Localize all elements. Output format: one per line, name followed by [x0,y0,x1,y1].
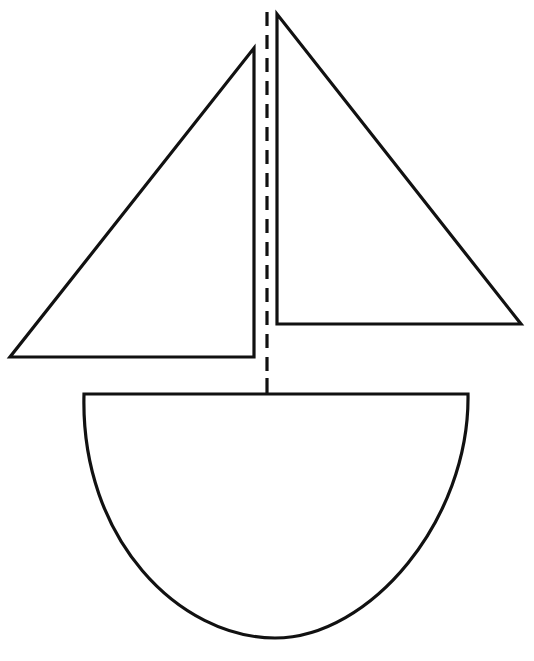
left-sail [10,48,254,357]
right-sail [277,14,521,324]
hull [84,394,468,638]
sailboat-drawing [0,0,534,661]
